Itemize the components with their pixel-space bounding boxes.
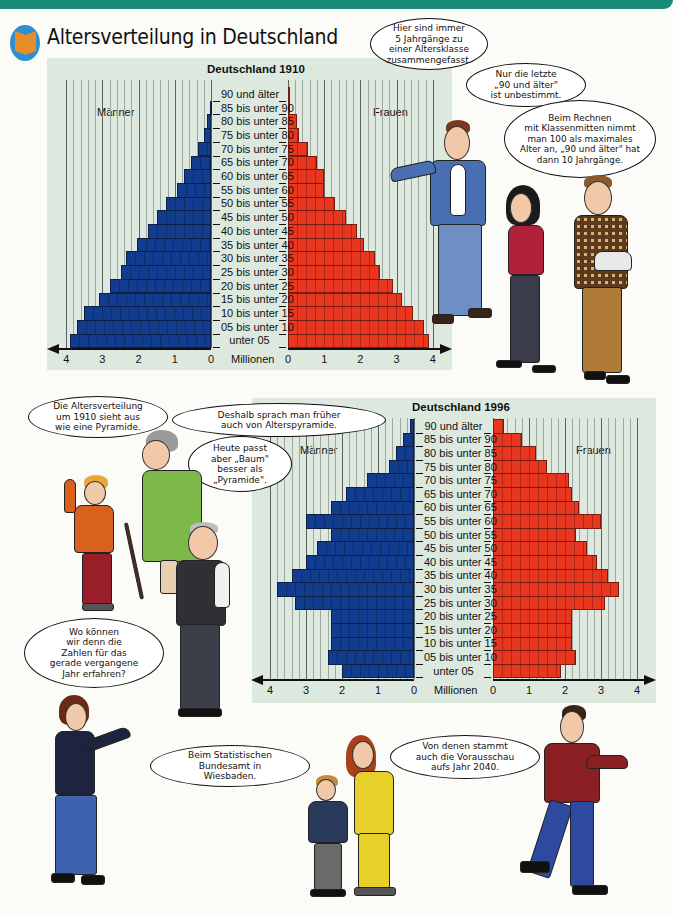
bar-male [137,238,211,253]
axis-tick [213,197,220,198]
bar-female [288,334,429,349]
axis-number-male: 3 [96,353,108,365]
bar-female [493,637,572,652]
age-group-label: 35 bis unter 40 [221,239,278,251]
bar-male [110,279,211,294]
age-group-label: 05 bis unter 10 [221,321,278,333]
age-group-label: 40 bis unter 45 [221,225,278,237]
character-woman-navy [45,695,135,890]
bar-male [331,609,414,624]
age-group-label: 75 bis unter 80 [424,461,483,473]
axis-tick [213,347,220,348]
age-group-label: 20 bis unter 25 [221,280,278,292]
grid-line [306,418,307,679]
bar-female [493,433,522,448]
age-group-label: 70 bis unter 75 [424,474,483,486]
age-group-label: 55 bis unter 60 [221,184,278,196]
grid-line [299,418,300,679]
axis-number-female: 1 [523,684,535,696]
axis-number-female: 0 [487,684,499,696]
bar-female [493,514,601,529]
axis-tick [416,677,423,678]
grid-line [623,418,624,679]
bar-female [288,197,335,212]
axis-tick [213,101,220,102]
axis-number-female: 3 [391,353,403,365]
age-group-label: 15 bis unter 20 [424,624,483,636]
axis-tick [416,541,423,542]
bar-male [126,251,211,266]
axis-number-male: 2 [336,684,348,696]
age-group-label: unter 05 [424,665,483,677]
bar-male [204,128,211,143]
axis-tick [213,142,220,143]
bar-male [331,637,414,652]
bar-male [346,487,414,502]
bar-female [493,473,569,488]
axis-number-male: 4 [60,353,72,365]
axis-number-male: 2 [133,353,145,365]
axis-number-female: 3 [595,684,607,696]
bar-female [288,210,346,225]
bar-male [331,501,414,516]
age-group-label: 70 bis unter 75 [221,143,278,155]
age-group-label: 45 bis unter 50 [424,542,483,554]
axis-tick [213,279,220,280]
axis-number-female: 2 [559,684,571,696]
axis-unit-label: Millionen [231,353,274,365]
age-group-label: 75 bis unter 80 [221,129,278,141]
axis-tick [213,334,220,335]
age-group-label: 60 bis unter 65 [424,501,483,513]
bar-male [157,210,211,225]
age-group-label: 85 bis unter 90 [221,102,278,114]
age-group-label: 10 bis unter 15 [424,637,483,649]
axis-number-female: 1 [318,353,330,365]
axis-tick [213,320,220,321]
bar-female [493,541,587,556]
age-group-label: 10 bis unter 15 [221,307,278,319]
bar-female [493,555,597,570]
bar-male [277,582,414,597]
bar-male [403,433,414,448]
age-group-label: 90 und älter [424,420,483,432]
axis-tick [279,334,286,335]
age-group-label: 55 bis unter 60 [424,515,483,527]
bar-female [493,650,576,665]
axis-tick [416,650,423,651]
axis-tick [279,347,286,348]
bar-female [493,609,572,624]
axis-tick [213,114,220,115]
axis-number-male: 3 [300,684,312,696]
axis-tick [484,677,491,678]
speech-bubble-statistisches-bundesamt: Beim StatistischenBundesamt inWiesbaden. [150,745,310,787]
axis-tick [416,637,423,638]
axis-tick [213,251,220,252]
bar-female [288,279,393,294]
axis-tick [416,501,423,502]
bar-male [177,183,211,198]
age-group-label: 85 bis unter 90 [424,433,483,445]
bar-male [84,306,211,321]
axis-tick [416,596,423,597]
bar-female [493,419,504,434]
bar-male [295,596,414,611]
character-man-walking [520,705,630,900]
age-group-label: 15 bis unter 20 [221,293,278,305]
bar-male [306,514,414,529]
age-group-label: 25 bis unter 30 [424,597,483,609]
character-man-glasses [560,175,650,390]
bar-female [288,251,375,266]
grid-line [630,418,631,679]
grid-line [313,418,314,679]
axis-tick [213,293,220,294]
character-girl-yellow [340,735,410,900]
axis-tick [416,487,423,488]
arrow-right-icon [644,675,656,685]
bar-female [493,582,619,597]
bar-male [342,664,414,679]
bar-female [493,528,576,543]
age-group-label: 45 bis unter 50 [221,211,278,223]
bar-male [184,169,211,184]
age-group-label: 35 bis unter 40 [424,569,483,581]
character-woman-red [490,185,570,385]
